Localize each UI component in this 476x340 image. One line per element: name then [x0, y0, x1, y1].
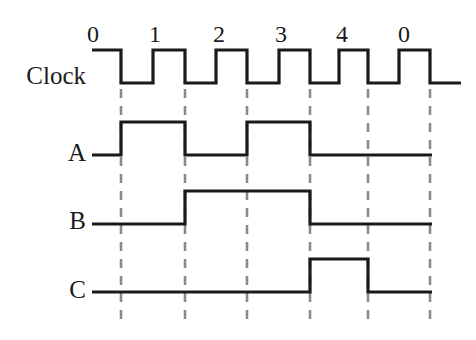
clock-waveform — [92, 50, 461, 83]
signal-a-row-label: A — [68, 139, 86, 166]
timing-diagram-figure: 0 1 2 3 4 0 Clock A B C — [0, 0, 476, 340]
clock-row-label: Clock — [26, 62, 86, 89]
count-label-1: 1 — [149, 21, 161, 47]
signal-c-row-label: C — [69, 276, 86, 303]
row-labels-group: Clock A B C — [26, 62, 86, 303]
count-label-4: 4 — [336, 21, 348, 47]
signal-a-waveform — [92, 122, 432, 155]
signal-c-waveform — [92, 259, 432, 292]
count-label-2: 2 — [213, 21, 225, 47]
timing-diagram-canvas: 0 1 2 3 4 0 Clock A B C — [0, 0, 476, 340]
count-label-5: 0 — [398, 21, 410, 47]
count-label-3: 3 — [275, 21, 287, 47]
reference-lines-group — [121, 89, 430, 322]
count-label-0: 0 — [87, 21, 99, 47]
count-labels-group: 0 1 2 3 4 0 — [87, 21, 410, 47]
signal-b-waveform — [92, 191, 432, 224]
signal-b-row-label: B — [69, 207, 86, 234]
